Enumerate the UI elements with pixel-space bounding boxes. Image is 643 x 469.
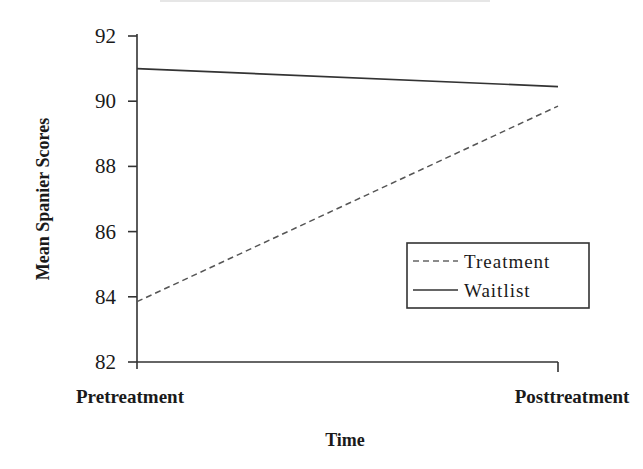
x-tick-label-posttreatment: Posttreatment — [515, 386, 630, 407]
legend-treatment-label: Treatment — [464, 251, 550, 272]
x-tick-label-pretreatment: Pretreatment — [76, 386, 185, 407]
x-axis: Pretreatment Posttreatment — [76, 362, 630, 407]
y-tick-label: 88 — [95, 154, 116, 178]
y-tick-label: 92 — [95, 24, 116, 48]
series-line-waitlist — [137, 69, 558, 87]
y-tick-label: 82 — [95, 350, 116, 374]
y-tick-label: 86 — [95, 220, 116, 244]
x-axis-title: Time — [325, 430, 365, 450]
y-axis: 828486889092 — [95, 24, 137, 374]
y-tick-label: 84 — [95, 285, 117, 309]
legend: Treatment Waitlist — [407, 243, 589, 308]
y-axis-title: Mean Spanier Scores — [33, 118, 53, 280]
line-chart: 828486889092 Pretreatment Posttreatment … — [0, 0, 643, 469]
y-tick-label: 90 — [95, 89, 116, 113]
legend-waitlist-label: Waitlist — [464, 280, 531, 301]
